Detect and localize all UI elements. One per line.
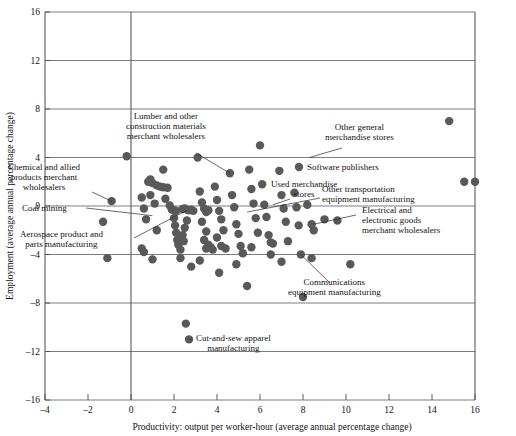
data-point <box>209 245 217 253</box>
data-point <box>282 218 290 226</box>
data-point <box>99 218 107 226</box>
data-point <box>260 201 268 209</box>
data-point <box>292 203 300 211</box>
data-point <box>163 184 171 192</box>
leader-line-lumber <box>196 153 230 173</box>
annotation-chemical: Chemical and alliedproducts merchantwhol… <box>8 162 80 192</box>
data-point <box>196 187 204 195</box>
data-point <box>183 216 191 224</box>
data-point <box>267 250 275 258</box>
x-tick-label: 2 <box>172 405 177 415</box>
x-tick-label: –4 <box>39 405 50 415</box>
scatter-chart-figure: –4–202468101214161612840–4–8–12–16 Lumbe… <box>0 0 516 436</box>
data-point <box>150 199 158 207</box>
leader-line-chemical <box>92 192 112 201</box>
y-tick-label: 16 <box>31 7 41 17</box>
x-tick-label: 10 <box>341 405 351 415</box>
data-point <box>256 141 264 149</box>
data-point <box>142 215 150 223</box>
annotation-communications: Communicationsequipment manufacturing <box>288 277 381 297</box>
data-point <box>215 268 223 276</box>
data-point <box>179 237 187 245</box>
data-point <box>123 152 131 160</box>
annotation-other-general-merch: Other generalmerchandise stores <box>325 122 394 142</box>
data-point <box>196 256 204 264</box>
x-tick-label: –2 <box>82 405 93 415</box>
data-point <box>236 242 244 250</box>
annotation-line: Other general <box>335 122 385 132</box>
annotation-line: merchant wholesalers <box>362 225 441 235</box>
annotation-line: Aerospace product and <box>20 229 103 239</box>
x-tick-label: 12 <box>384 405 394 415</box>
y-tick-label: 8 <box>35 104 40 114</box>
x-axis-title: Productivity: output per worker-hour (av… <box>132 422 411 433</box>
data-point <box>138 193 146 201</box>
data-point-software-publishers <box>295 163 303 171</box>
annotation-line: parts manufacturing <box>25 239 98 249</box>
x-tick-label: 16 <box>470 405 480 415</box>
annotation-line: merchandise stores <box>325 132 394 142</box>
data-point <box>213 196 221 204</box>
data-point <box>346 260 354 268</box>
annotation-line: Lumber and other <box>134 111 198 121</box>
data-point <box>239 249 247 257</box>
data-point <box>232 260 240 268</box>
data-point <box>148 255 156 263</box>
leader-line-used-merchandise <box>273 199 290 205</box>
annotation-line: Coal mining <box>22 203 67 213</box>
y-tick-label: –8 <box>30 298 41 308</box>
data-point <box>146 191 154 199</box>
data-point <box>258 180 266 188</box>
annotation-aerospace: Aerospace product andparts manufacturing <box>20 229 103 249</box>
annotation-line: manufacturing <box>207 343 260 353</box>
data-point <box>159 165 167 173</box>
leader-line-other-general-merch <box>309 148 342 158</box>
data-point <box>445 117 453 125</box>
annotation-line: construction materials <box>126 121 206 131</box>
data-point <box>284 237 292 245</box>
x-tick-label: 8 <box>301 405 306 415</box>
data-point <box>230 203 238 211</box>
annotation-cut-and-sew: Cut-and-sew apparelmanufacturing <box>196 333 271 353</box>
data-point <box>333 216 341 224</box>
data-point <box>221 244 229 252</box>
data-point <box>303 201 311 209</box>
annotation-line: products merchant <box>11 172 78 182</box>
x-tick-label: 0 <box>129 405 134 415</box>
x-tick-label: 14 <box>427 405 437 415</box>
data-point <box>228 191 236 199</box>
data-point <box>295 221 303 229</box>
data-point <box>193 153 201 161</box>
annotation-lumber: Lumber and otherconstruction materialsme… <box>126 111 206 141</box>
chart-canvas: –4–202468101214161612840–4–8–12–16 Lumbe… <box>0 0 516 436</box>
data-point <box>307 254 315 262</box>
data-point <box>140 248 148 256</box>
data-point <box>213 233 221 241</box>
annotation-other-transportation: Other transportationequipment manufactur… <box>322 184 415 204</box>
annotation-line: merchant wholesalers <box>127 131 206 141</box>
y-tick-label: –16 <box>25 395 41 405</box>
annotation-electrical-electronic: Electrical andelectronic goodsmerchant w… <box>362 205 441 235</box>
data-point <box>249 199 257 207</box>
data-point <box>275 167 283 175</box>
annotation-line: Communications <box>304 277 366 287</box>
data-point <box>107 197 115 205</box>
data-point <box>176 245 184 253</box>
data-point <box>232 220 240 228</box>
y-tick-label: –12 <box>25 347 41 357</box>
annotation-line: electronic goods <box>362 215 422 225</box>
data-point <box>471 178 479 186</box>
data-point <box>277 191 285 199</box>
data-point <box>277 258 285 266</box>
annotation-line: Software publishers <box>307 162 379 172</box>
y-tick-label: 12 <box>31 56 41 66</box>
data-point <box>176 254 184 262</box>
annotation-line: equipment manufacturing <box>322 194 415 204</box>
data-point <box>189 207 197 215</box>
data-point <box>103 254 111 262</box>
annotation-line: Chemical and allied <box>8 162 80 172</box>
annotation-line: stores <box>294 189 315 199</box>
data-point <box>182 319 190 327</box>
annotation-line: Other transportation <box>322 184 395 194</box>
data-point <box>187 262 195 270</box>
